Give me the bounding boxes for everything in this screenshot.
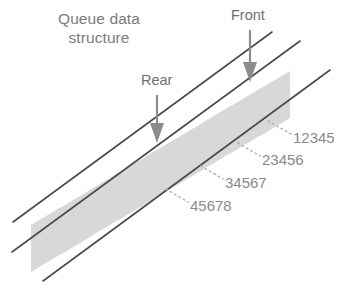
rear-pointer-label: Rear xyxy=(141,72,172,89)
queue-cells-front-row xyxy=(60,122,204,255)
queue-cell-front-2 xyxy=(117,156,147,221)
queue-cell-back-5 xyxy=(231,88,261,153)
queue-cell-front-3 xyxy=(174,122,204,187)
queue-diagram: Queue data structure Front Rear 12345 23… xyxy=(0,0,344,296)
front-pointer-label: Front xyxy=(231,7,265,24)
queue-cell-front-1 xyxy=(60,190,90,255)
queue-value-label-1: 12345 xyxy=(293,129,335,146)
queue-cell-back-1 xyxy=(31,207,61,272)
queue-rail-bottom xyxy=(43,70,330,281)
queue-value-label-4: 45678 xyxy=(190,197,232,214)
page-title: Queue data structure xyxy=(24,9,174,47)
queue-value-label-2: 23456 xyxy=(262,151,304,168)
queue-value-label-3: 34567 xyxy=(225,174,267,191)
value-leader-4 xyxy=(166,189,188,202)
